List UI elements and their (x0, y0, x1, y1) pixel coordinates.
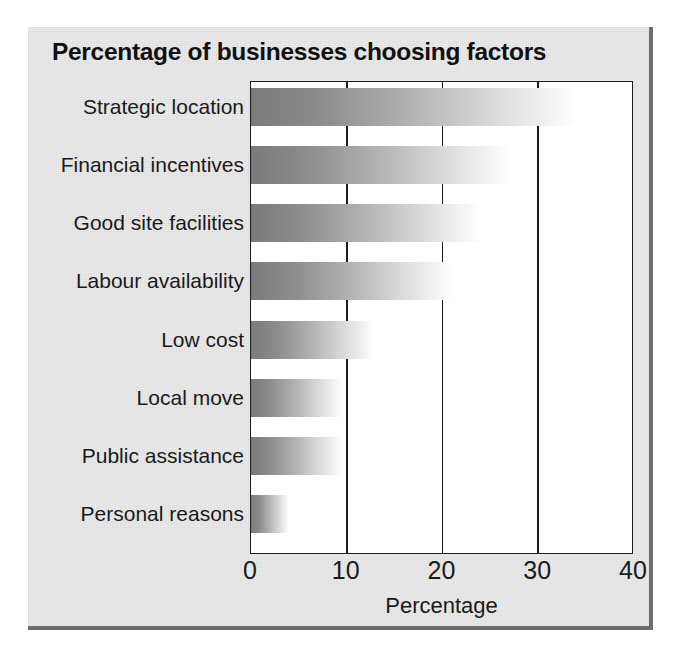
category-label-8: Personal reasons (44, 503, 244, 524)
x-axis-title: Percentage (250, 593, 633, 619)
bar-5 (251, 321, 375, 359)
bar-7 (251, 437, 342, 475)
category-label-2: Financial incentives (44, 154, 244, 175)
category-label-7: Public assistance (44, 445, 244, 466)
bar-2 (251, 146, 510, 184)
bar-fill (251, 321, 375, 359)
x-tick-30: 30 (523, 558, 551, 583)
bar-fill (251, 88, 577, 126)
category-label-4: Labour availability (44, 270, 244, 291)
bar-8 (251, 495, 289, 533)
bar-4 (251, 262, 452, 300)
category-label-5: Low cost (44, 329, 244, 350)
bars-layer (251, 82, 632, 553)
x-axis-tick-labels: 010203040 (250, 558, 633, 592)
bar-fill (251, 262, 452, 300)
bar-fill (251, 204, 481, 242)
x-tick-20: 20 (428, 558, 456, 583)
bar-fill (251, 495, 289, 533)
category-label-3: Good site facilities (44, 212, 244, 233)
plot-wrapper: Strategic locationFinancial incentivesGo… (28, 27, 653, 630)
figure-card: Percentage of businesses choosing factor… (28, 27, 653, 630)
category-label-6: Local move (44, 387, 244, 408)
category-label-1: Strategic location (44, 96, 244, 117)
x-tick-10: 10 (332, 558, 360, 583)
bar-fill (251, 437, 342, 475)
plot-area (250, 81, 633, 554)
x-tick-40: 40 (619, 558, 647, 583)
x-tick-0: 0 (243, 558, 257, 583)
category-axis-labels: Strategic locationFinancial incentivesGo… (38, 81, 244, 554)
bar-fill (251, 379, 342, 417)
bar-fill (251, 146, 510, 184)
bar-1 (251, 88, 577, 126)
bar-3 (251, 204, 481, 242)
bar-6 (251, 379, 342, 417)
chart-title: Percentage of businesses choosing factor… (52, 38, 632, 66)
